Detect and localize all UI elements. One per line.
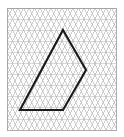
triangular-grid-figure [0, 0, 124, 137]
grid-plate-fill [7, 8, 116, 130]
figure-root: Triangular grid worksheet with quadrilat… [0, 0, 124, 137]
